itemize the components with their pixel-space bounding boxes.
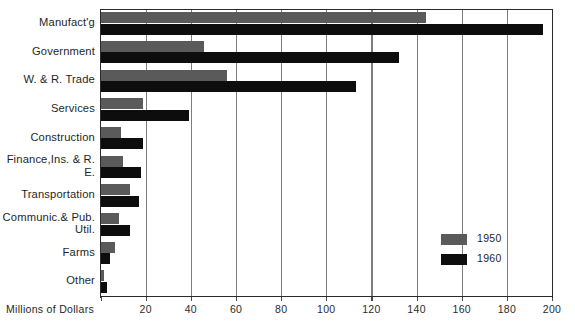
gridline-140 — [417, 9, 418, 297]
bar-1950-4 — [101, 127, 121, 138]
category-label-line: & Pub. Util. — [61, 211, 95, 236]
category-label-7: Communic.& Pub. Util. — [0, 211, 95, 236]
bar-chart: Manufact'gGovernmentW. & R. TradeService… — [0, 0, 575, 327]
bar-1960-4 — [101, 138, 144, 149]
category-label-line: Construction — [30, 131, 95, 143]
axis-frame-left — [100, 9, 101, 298]
category-label-1: Government — [0, 45, 95, 58]
bar-1950-0 — [101, 12, 426, 23]
category-label-9: Other — [0, 274, 95, 287]
bar-1950-5 — [101, 156, 124, 167]
category-label-3: Services — [0, 102, 95, 115]
bar-1950-8 — [101, 242, 116, 253]
legend-label-1950: 1950 — [477, 232, 502, 244]
category-label-2: W. & R. Trade — [0, 73, 95, 86]
category-label-line: Finance, — [7, 153, 51, 165]
bar-1960-5 — [101, 167, 142, 178]
category-label-8: Farms — [0, 246, 95, 259]
bar-1950-7 — [101, 213, 119, 224]
category-label-line: Farms — [63, 246, 95, 258]
category-label-line: W. & R. Trade — [23, 73, 95, 85]
x-tick-label-60: 60 — [216, 303, 256, 315]
category-label-4: Construction — [0, 131, 95, 144]
x-tick-label-20: 20 — [126, 303, 166, 315]
bar-1960-8 — [101, 253, 110, 264]
x-axis-title: Millions of Dollars — [6, 303, 94, 315]
bar-1950-3 — [101, 98, 144, 109]
legend-label-1960: 1960 — [477, 252, 502, 264]
bar-1960-9 — [101, 282, 108, 293]
x-axis-line — [100, 296, 553, 297]
bar-1960-3 — [101, 110, 189, 121]
bar-1960-2 — [101, 81, 356, 92]
gridline-180 — [507, 9, 508, 297]
axis-frame-right — [552, 9, 553, 298]
category-label-line: Services — [51, 102, 95, 114]
bar-1950-1 — [101, 41, 205, 52]
category-label-line: Ins. & R. E. — [51, 153, 95, 178]
bar-1960-0 — [101, 24, 543, 35]
bar-1950-6 — [101, 184, 130, 195]
category-label-line: Government — [32, 45, 95, 57]
axis-frame-top — [100, 9, 553, 10]
bar-1950-2 — [101, 70, 227, 81]
category-label-5: Finance,Ins. & R. E. — [0, 153, 95, 178]
x-tick-label-140: 140 — [397, 303, 437, 315]
category-label-6: Transportation — [0, 188, 95, 201]
category-label-line: Communic. — [3, 211, 61, 223]
category-label-0: Manufact'g — [0, 16, 95, 29]
x-tick-label-180: 180 — [487, 303, 527, 315]
bar-1960-1 — [101, 52, 399, 63]
legend-swatch-1950 — [441, 234, 467, 245]
category-label-line: Transportation — [21, 188, 95, 200]
x-tick-label-120: 120 — [351, 303, 391, 315]
x-tick-label-100: 100 — [306, 303, 346, 315]
x-tick-label-80: 80 — [261, 303, 301, 315]
category-label-line: Manufact'g — [39, 16, 95, 28]
x-tick-label-200: 200 — [532, 303, 572, 315]
x-tick-label-160: 160 — [442, 303, 482, 315]
bar-1960-6 — [101, 196, 139, 207]
legend-swatch-1960 — [441, 254, 467, 265]
category-label-line: Other — [66, 274, 95, 286]
x-tick-label-40: 40 — [171, 303, 211, 315]
bar-1960-7 — [101, 225, 130, 236]
